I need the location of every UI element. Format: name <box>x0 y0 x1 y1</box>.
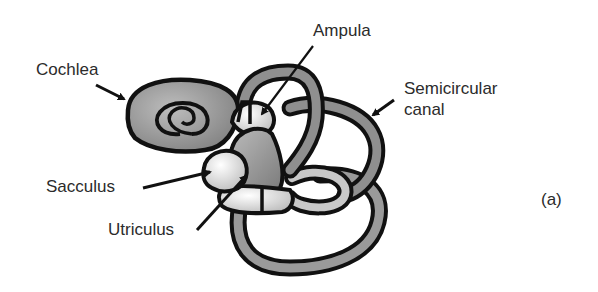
inner-ear-illustration <box>0 0 598 292</box>
panel-label: (a) <box>541 190 562 210</box>
horizontal-canal <box>290 173 346 208</box>
semicircular-canal-label-line2: canal <box>404 100 445 120</box>
sacculus-shape <box>203 151 246 192</box>
sacculus-label: Sacculus <box>46 177 115 197</box>
sacculus-arrow <box>143 172 210 188</box>
semicircular-arrow <box>373 100 394 115</box>
semicircular-canal-label-line1: Semicircular <box>404 79 498 99</box>
inner-ear-diagram: Cochlea Ampula Semicircular canal Saccul… <box>0 0 598 292</box>
ampula-label: Ampula <box>313 21 371 41</box>
cochlea-label: Cochlea <box>36 60 98 80</box>
cochlea-shape <box>128 80 238 152</box>
cochlea-arrow <box>96 85 124 99</box>
utriculus-label: Utriculus <box>108 220 174 240</box>
